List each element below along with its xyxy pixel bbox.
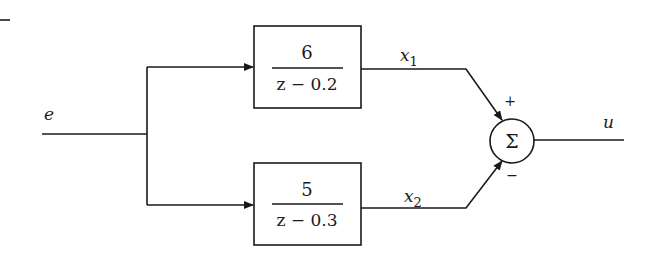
block2-numerator: 5: [301, 179, 312, 200]
transfer-block-1: 6 z − 0.2: [254, 26, 361, 108]
summing-junction: Σ + −: [490, 93, 534, 183]
block1-denominator: z − 0.2: [276, 74, 337, 94]
minus-sign: −: [506, 167, 518, 183]
signal-label-x2: x2: [404, 186, 422, 210]
signal-label-x1: x1: [400, 45, 418, 69]
block1-numerator: 6: [301, 42, 312, 63]
output-label-u: u: [603, 112, 614, 132]
block-diagram: e 6 z − 0.2 5 z − 0.3 x1 x2 Σ + − u: [0, 0, 653, 260]
x1-signal-line: [361, 69, 502, 120]
sigma-symbol: Σ: [505, 130, 518, 152]
plus-sign: +: [504, 93, 516, 109]
block2-denominator: z − 0.3: [276, 210, 337, 230]
x2-signal-line: [361, 161, 502, 208]
transfer-block-2: 5 z − 0.3: [254, 163, 361, 245]
input-label-e: e: [44, 104, 54, 124]
